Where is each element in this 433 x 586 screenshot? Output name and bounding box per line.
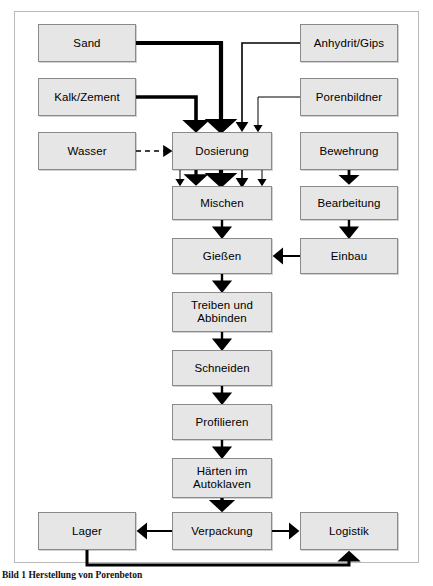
node-haerten-im-autoklaven[interactable]: Härten im Autoklaven xyxy=(172,458,272,498)
node-bewehrung[interactable]: Bewehrung xyxy=(300,132,398,170)
node-wasser[interactable]: Wasser xyxy=(38,132,136,170)
node-lager[interactable]: Lager xyxy=(38,512,136,550)
node-verpackung[interactable]: Verpackung xyxy=(172,512,272,550)
figure-root: Sand Kalk/Zement Wasser Anhydrit/Gips Po… xyxy=(0,0,433,586)
node-bearbeitung[interactable]: Bearbeitung xyxy=(300,186,398,220)
node-dosierung[interactable]: Dosierung xyxy=(172,132,272,170)
node-einbau[interactable]: Einbau xyxy=(300,238,398,274)
node-porenbildner[interactable]: Porenbildner xyxy=(300,78,398,116)
node-anhydrit-gips[interactable]: Anhydrit/Gips xyxy=(300,24,398,62)
node-mischen[interactable]: Mischen xyxy=(172,186,272,220)
node-sand[interactable]: Sand xyxy=(38,24,136,62)
figure-caption: Bild 1 Herstellung von Porenbeton xyxy=(2,570,432,580)
node-profilieren[interactable]: Profilieren xyxy=(172,404,272,440)
node-logistik[interactable]: Logistik xyxy=(300,512,398,550)
node-treiben-und-abbinden[interactable]: Treiben und Abbinden xyxy=(172,292,272,332)
node-giessen[interactable]: Gießen xyxy=(172,238,272,274)
node-schneiden[interactable]: Schneiden xyxy=(172,350,272,386)
node-kalk-zement[interactable]: Kalk/Zement xyxy=(38,78,136,116)
